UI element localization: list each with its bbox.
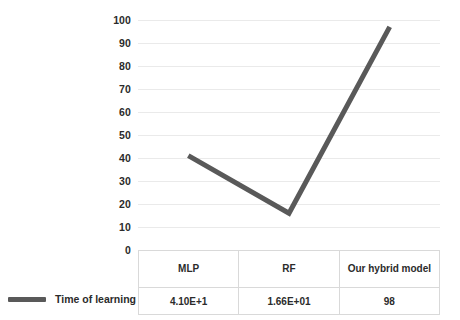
legend: Time of learning [8, 286, 136, 312]
y-tick-label: 10 [95, 222, 131, 232]
table-header-cell: MLP [139, 251, 239, 288]
table-value-cell: 1.66E+01 [239, 288, 339, 315]
y-tick-label: 90 [95, 38, 131, 48]
table-header-row: MLPRFOur hybrid model [139, 251, 440, 288]
y-tick-label: 70 [95, 84, 131, 94]
plot-area [138, 20, 440, 250]
y-tick-label: 100 [95, 15, 131, 25]
table-value-cell: 4.10E+1 [139, 288, 239, 315]
data-table: MLPRFOur hybrid model4.10E+11.66E+0198 [138, 250, 440, 315]
table-header-cell: Our hybrid model [339, 251, 439, 288]
y-axis: 1009080706050403020100 [95, 20, 131, 250]
y-tick-label: 40 [95, 153, 131, 163]
table-header-cell: RF [239, 251, 339, 288]
y-tick-label: 30 [95, 176, 131, 186]
y-tick-label: 80 [95, 61, 131, 71]
series-line-time-of-learning [138, 20, 440, 250]
line-chart-with-data-table: 1009080706050403020100 MLPRFOur hybrid m… [0, 0, 460, 320]
y-tick-label: 0 [95, 245, 131, 255]
y-tick-label: 50 [95, 130, 131, 140]
y-tick-label: 20 [95, 199, 131, 209]
table-value-cell: 98 [339, 288, 439, 315]
table-row: 4.10E+11.66E+0198 [139, 288, 440, 315]
y-tick-label: 60 [95, 107, 131, 117]
legend-swatch-time-of-learning [8, 297, 46, 302]
legend-label-time-of-learning: Time of learning [55, 293, 136, 305]
